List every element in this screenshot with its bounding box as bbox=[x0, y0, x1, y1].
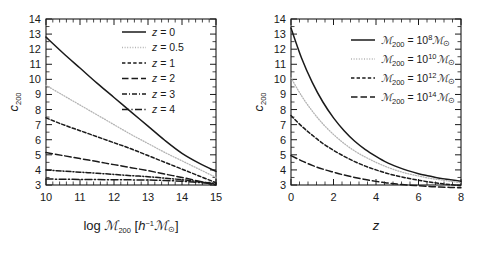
y-tick-label: 3 bbox=[280, 179, 286, 191]
y-axis-title: c200 bbox=[6, 92, 23, 111]
legend-label: z = 3 bbox=[151, 88, 175, 100]
y-tick-label: 14 bbox=[29, 13, 41, 25]
y-tick-label: 10 bbox=[274, 73, 286, 85]
x-axis-title: log ℳ200 [h−1ℳ⊙] bbox=[83, 218, 178, 235]
x-tick-label: 6 bbox=[415, 191, 421, 203]
y-tick-label: 8 bbox=[280, 104, 286, 116]
y-tick-label: 9 bbox=[35, 88, 41, 100]
legend-label: z = 2 bbox=[151, 72, 175, 84]
y-tick-label: 14 bbox=[274, 13, 286, 25]
x-tick-label: 14 bbox=[176, 191, 188, 203]
x-tick-label: 15 bbox=[210, 191, 222, 203]
x-tick-label: 4 bbox=[373, 191, 379, 203]
x-tick-label: 0 bbox=[288, 191, 294, 203]
y-tick-label: 5 bbox=[280, 149, 286, 161]
y-tick-label: 10 bbox=[29, 73, 41, 85]
y-tick-label: 5 bbox=[35, 149, 41, 161]
legend-label: ℳ200 = 108ℳ⊙ bbox=[381, 33, 450, 49]
chart-svg-right: 3456789101112131402468c200zℳ200 = 108ℳ⊙ℳ… bbox=[245, 0, 490, 255]
figure-container: 34567891011121314101112131415c200log ℳ20… bbox=[0, 0, 490, 255]
x-tick-label: 12 bbox=[108, 191, 120, 203]
y-tick-label: 11 bbox=[30, 58, 41, 70]
legend-label: ℳ200 = 1010ℳ⊙ bbox=[381, 52, 455, 68]
x-tick-label: 13 bbox=[142, 191, 154, 203]
data-curve bbox=[46, 118, 216, 183]
y-tick-label: 12 bbox=[274, 43, 286, 55]
legend-label: z = 0 bbox=[151, 26, 175, 38]
y-tick-label: 8 bbox=[35, 104, 41, 116]
y-tick-label: 7 bbox=[35, 119, 41, 131]
y-tick-label: 6 bbox=[35, 134, 41, 146]
x-tick-label: 11 bbox=[74, 191, 85, 203]
legend-label: z = 0.5 bbox=[151, 41, 184, 53]
y-axis-title: c200 bbox=[251, 92, 268, 111]
chart-panel-right: 3456789101112131402468c200zℳ200 = 108ℳ⊙ℳ… bbox=[245, 0, 490, 255]
legend-label: z = 1 bbox=[151, 57, 175, 69]
x-tick-label: 10 bbox=[40, 191, 52, 203]
y-tick-label: 6 bbox=[280, 134, 286, 146]
y-tick-label: 9 bbox=[280, 88, 286, 100]
y-tick-label: 13 bbox=[29, 28, 41, 40]
y-tick-label: 4 bbox=[280, 164, 286, 176]
y-tick-label: 11 bbox=[275, 58, 286, 70]
data-curve bbox=[291, 116, 461, 186]
legend-label: z = 4 bbox=[151, 103, 175, 115]
chart-panel-left: 34567891011121314101112131415c200log ℳ20… bbox=[0, 0, 245, 255]
plot-frame bbox=[46, 19, 216, 185]
y-tick-label: 3 bbox=[35, 179, 41, 191]
y-tick-label: 13 bbox=[274, 28, 286, 40]
x-axis-title: z bbox=[372, 218, 380, 233]
x-tick-label: 8 bbox=[458, 191, 464, 203]
data-curve bbox=[46, 37, 216, 171]
chart-svg-left: 34567891011121314101112131415c200log ℳ20… bbox=[0, 0, 245, 255]
y-tick-label: 12 bbox=[29, 43, 41, 55]
legend-label: ℳ200 = 1012ℳ⊙ bbox=[381, 71, 455, 87]
data-curve bbox=[46, 85, 216, 177]
x-tick-label: 2 bbox=[330, 191, 336, 203]
y-tick-label: 7 bbox=[280, 119, 286, 131]
legend-label: ℳ200 = 1014ℳ⊙ bbox=[381, 90, 455, 106]
y-tick-label: 4 bbox=[35, 164, 41, 176]
